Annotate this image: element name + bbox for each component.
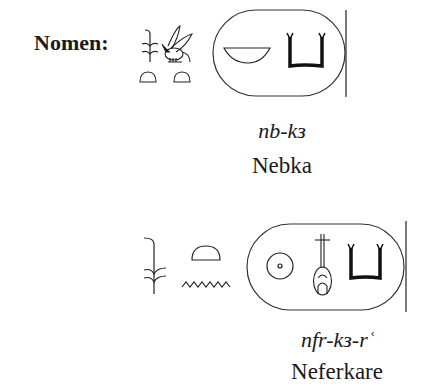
nefer-icon: [314, 234, 332, 295]
entry-2-cartouche: [246, 220, 411, 315]
bread-loaf-icon: [174, 72, 190, 82]
sedge-plant-icon: [144, 238, 166, 294]
entry-2-prefix-glyphs: [142, 232, 237, 297]
nomen-label: Nomen:: [34, 30, 109, 56]
entry-1-transliteration: nb-kз: [222, 118, 342, 144]
basket-icon: [224, 48, 270, 63]
entry-1-prefix-glyphs: [138, 22, 198, 87]
bee-icon: [162, 26, 192, 62]
entry-2-name: Neferkare: [262, 359, 412, 385]
ka-arms-icon: [348, 244, 383, 278]
sun-disk-icon: [267, 253, 293, 279]
sedge-plant-icon: [142, 30, 158, 62]
water-ripple-icon: [182, 282, 230, 287]
entry-1-name: Nebka: [222, 153, 342, 179]
ka-arms-icon: [287, 33, 325, 66]
bread-loaf-icon: [192, 246, 220, 260]
bread-loaf-icon: [140, 72, 156, 82]
entry-2-transliteration: nfr-kз-rʿ: [268, 327, 408, 353]
entry-1-cartouche: [212, 9, 352, 99]
